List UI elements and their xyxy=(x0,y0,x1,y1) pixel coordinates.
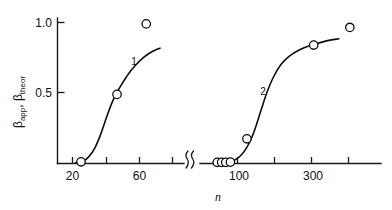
data-point-2-5 xyxy=(310,41,318,49)
x-tick-group-right xyxy=(238,157,349,164)
figure-root: 1.0 0.5 βapp, βtheor xyxy=(0,0,392,210)
svg-text:βapp, βtheor: βapp, βtheor xyxy=(11,76,27,128)
data-point-1-2 xyxy=(142,20,150,28)
x-tick-label-60: 60 xyxy=(133,169,147,183)
axis-break-icon xyxy=(186,151,194,168)
y-tick-label-1: 1.0 xyxy=(35,16,52,30)
y-tick-group xyxy=(58,23,65,93)
curve-label-1: 1 xyxy=(131,56,137,67)
x-tick-label-100: 100 xyxy=(229,169,249,183)
y-tick-label-0.5: 0.5 xyxy=(35,86,52,100)
data-point-2-6 xyxy=(346,23,354,31)
x-axis-title: n xyxy=(215,190,221,204)
data-point-2-3 xyxy=(226,158,234,166)
chart-canvas: 1.0 0.5 βapp, βtheor xyxy=(0,0,392,210)
series-layer xyxy=(75,20,354,167)
data-point-1-1 xyxy=(113,90,121,98)
curve-1 xyxy=(75,48,160,163)
y-axis-title: βapp, βtheor xyxy=(11,76,27,128)
y-axis-title-sub-app: app xyxy=(18,107,27,121)
data-point-1-0 xyxy=(77,158,85,166)
y-axis-title-sub-theor: theor xyxy=(18,76,27,95)
curve-label-2: 2 xyxy=(260,86,266,97)
x-tick-label-300: 300 xyxy=(303,169,323,183)
data-point-2-4 xyxy=(243,135,251,143)
curve-2 xyxy=(229,39,339,162)
x-tick-label-20: 20 xyxy=(66,169,80,183)
y-axis-title-comma: , xyxy=(11,101,25,108)
